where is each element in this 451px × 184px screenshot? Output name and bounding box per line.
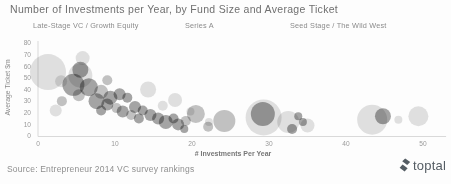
svg-text:20: 20 [188, 140, 196, 147]
svg-text:30: 30 [265, 140, 273, 147]
svg-text:0: 0 [27, 132, 31, 139]
source-attribution: Source: Entrepreneur 2014 VC survey rank… [7, 164, 194, 174]
svg-text:20: 20 [24, 109, 32, 116]
svg-text:60: 60 [24, 63, 32, 70]
svg-text:10: 10 [111, 140, 119, 147]
svg-text:10: 10 [24, 121, 32, 128]
toptal-logo[interactable]: toptal [399, 156, 446, 174]
svg-text:30: 30 [24, 97, 32, 104]
svg-text:70: 70 [24, 51, 32, 58]
x-axis-label: # Investments Per Year [148, 150, 318, 157]
svg-text:50: 50 [24, 74, 32, 81]
svg-text:80: 80 [24, 39, 32, 46]
toptal-logo-icon [399, 158, 411, 172]
svg-text:0: 0 [36, 140, 40, 147]
toptal-logo-text: toptal [413, 158, 446, 173]
svg-text:50: 50 [419, 140, 427, 147]
svg-text:40: 40 [342, 140, 350, 147]
svg-text:40: 40 [24, 86, 32, 93]
